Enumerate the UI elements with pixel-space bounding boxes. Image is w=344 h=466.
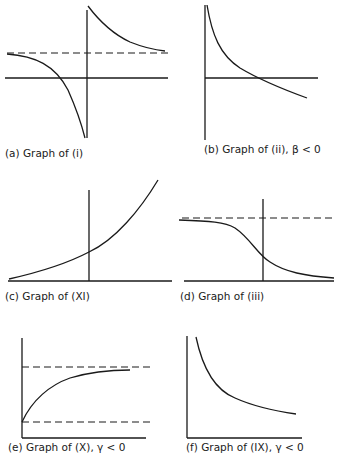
panel-f-caption: (f) Graph of (IX), γ < 0 <box>186 441 304 453</box>
panel-a-caption: (a) Graph of (i) <box>5 147 83 159</box>
panel-a-left-branch <box>7 54 85 138</box>
panel-c-caption: (c) Graph of (XI) <box>5 290 90 302</box>
panel-d: (d) Graph of (iii) <box>179 199 334 302</box>
panel-c: (c) Graph of (XI) <box>5 180 172 302</box>
figure-graphs: (a) Graph of (i) (b) Graph of (ii), β < … <box>0 0 344 466</box>
panel-d-sigmoid-curve <box>179 220 334 278</box>
panel-f-curve <box>196 337 296 414</box>
panel-a: (a) Graph of (i) <box>5 6 168 159</box>
panel-c-curve <box>9 180 158 279</box>
panel-f: (f) Graph of (IX), γ < 0 <box>186 336 304 453</box>
panel-e: (e) Graph of (X), γ < 0 <box>8 338 150 453</box>
panel-b: (b) Graph of (ii), β < 0 <box>204 5 321 155</box>
panel-e-caption: (e) Graph of (X), γ < 0 <box>8 441 125 453</box>
panel-e-curve <box>22 370 130 422</box>
panel-b-caption: (b) Graph of (ii), β < 0 <box>204 143 321 155</box>
panel-a-right-branch <box>88 6 165 51</box>
panel-d-caption: (d) Graph of (iii) <box>180 290 264 302</box>
panel-b-curve <box>207 5 307 98</box>
